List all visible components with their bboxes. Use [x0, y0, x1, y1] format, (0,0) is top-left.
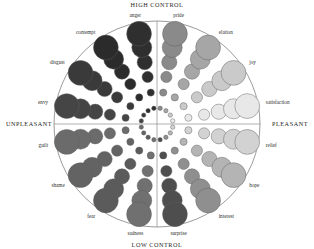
emotion-bubble [235, 94, 260, 119]
emotion-bubble [111, 92, 122, 103]
emotion-bubble [198, 109, 209, 120]
emotion-bubble [122, 114, 129, 121]
emotion-bubble [122, 127, 129, 134]
emotion-bubble [185, 127, 192, 134]
emotion-bubble [147, 152, 154, 159]
emotion-bubble [198, 128, 209, 139]
emotion-circumplex-figure: angercontemptdisgustenvyguiltshamefearsa… [0, 0, 314, 249]
emotion-bubble [168, 131, 172, 135]
emotion-bubble [68, 60, 93, 85]
emotion-bubble [54, 130, 79, 155]
emotion-label-pride: pride [173, 12, 184, 18]
emotion-bubble [164, 109, 168, 113]
emotion-bubble [168, 113, 172, 117]
emotion-bubble [111, 145, 122, 156]
emotion-bubble [163, 202, 188, 227]
emotion-bubble [146, 135, 150, 139]
emotion-bubble [178, 158, 189, 169]
emotion-bubble [164, 135, 168, 139]
emotion-bubble [191, 145, 202, 156]
emotion-bubble [142, 113, 146, 117]
emotion-bubble [221, 163, 246, 188]
emotion-bubble [147, 89, 154, 96]
circumplex-svg: angercontemptdisgustenvyguiltshamefearsa… [0, 0, 314, 249]
emotion-bubble [127, 103, 134, 110]
emotion-bubble [160, 152, 167, 159]
emotion-label-fear: fear [87, 213, 95, 219]
emotion-bubble [127, 21, 152, 46]
emotion-bubble [93, 35, 118, 60]
emotion-bubble [146, 109, 150, 113]
emotion-bubble [152, 106, 156, 110]
emotion-bubble [139, 119, 143, 123]
emotion-bubble [180, 138, 187, 145]
emotion-bubble [127, 202, 152, 227]
emotion-bubble [152, 137, 156, 141]
emotion-bubble [125, 158, 136, 169]
emotion-label-guilt: guilt [39, 142, 49, 148]
emotion-bubble [163, 21, 188, 46]
emotion-label-elation: elation [219, 29, 234, 35]
emotion-bubble [170, 119, 174, 123]
axis-label-unpleasant: UNPLEASANT [6, 120, 52, 127]
emotion-bubble [104, 109, 115, 120]
emotion-label-envy: envy [38, 99, 48, 105]
emotion-bubble [161, 165, 172, 176]
emotion-label-surprise: surprise [170, 230, 187, 236]
axis-label-high-control: HIGH CONTROL [131, 1, 184, 8]
emotion-bubble [136, 94, 143, 101]
emotion-bubble [160, 89, 167, 96]
emotion-label-sadness: sadness [127, 230, 143, 236]
emotion-bubble [127, 138, 134, 145]
emotion-bubble [235, 130, 260, 155]
emotion-bubble [158, 106, 162, 110]
axis-label-low-control: LOW CONTROL [132, 241, 183, 248]
emotion-label-hope: hope [249, 182, 260, 188]
emotion-label-anger: anger [130, 12, 142, 18]
emotion-bubble [142, 71, 153, 82]
emotion-label-relief: relief [266, 142, 277, 148]
emotion-bubble [93, 188, 118, 213]
emotion-label-satisfaction: satisfaction [266, 99, 290, 105]
emotion-bubble [68, 163, 93, 188]
emotion-bubble [139, 125, 143, 129]
emotion-bubble [221, 60, 246, 85]
emotion-bubble [158, 137, 162, 141]
emotion-bubble [170, 125, 174, 129]
axis-label-pleasant: PLEASANT [272, 120, 308, 127]
emotion-label-shame: shame [51, 182, 65, 188]
emotion-bubble [178, 78, 189, 89]
emotion-bubble [142, 131, 146, 135]
emotion-label-joy: joy [248, 59, 256, 65]
emotion-bubble [196, 188, 221, 213]
emotion-bubble [180, 103, 187, 110]
emotion-label-contempt: contempt [76, 29, 96, 35]
emotion-bubble [161, 71, 172, 82]
emotion-label-interest: interest [219, 213, 235, 219]
emotion-bubble [125, 78, 136, 89]
emotion-bubble [191, 92, 202, 103]
emotion-bubble [171, 94, 178, 101]
emotion-bubble [196, 35, 221, 60]
emotion-bubble [54, 94, 79, 119]
emotion-bubble [104, 128, 115, 139]
emotion-label-disgust: disgust [50, 59, 65, 65]
emotion-bubble [142, 165, 153, 176]
emotion-bubble [185, 114, 192, 121]
emotion-bubble [171, 147, 178, 154]
figure-outline-group [54, 21, 260, 227]
emotion-bubble [136, 147, 143, 154]
